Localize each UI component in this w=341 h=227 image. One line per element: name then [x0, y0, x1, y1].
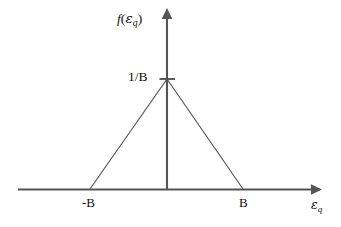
x-axis-label: εq	[311, 199, 322, 214]
y-axis-label: f(εq)	[117, 12, 142, 27]
x-axis-label-epsilon-subscript: q	[318, 204, 323, 214]
y-axis-label-epsilon: ε	[125, 10, 132, 26]
triangular-pdf-plot	[0, 0, 341, 227]
y-axis-label-close-paren: )	[138, 11, 143, 26]
y-axis-arrowhead-icon	[162, 8, 173, 19]
x-axis-tick-label-positive-b: B	[239, 196, 248, 209]
x-axis-tick-label-negative-b: -B	[82, 196, 95, 209]
x-axis-arrowhead-icon	[311, 184, 322, 195]
x-axis-label-epsilon: ε	[311, 197, 318, 212]
peak-value-label: 1/B	[128, 70, 148, 84]
figure-canvas: f(εq) 1/B -B B εq	[0, 0, 341, 227]
